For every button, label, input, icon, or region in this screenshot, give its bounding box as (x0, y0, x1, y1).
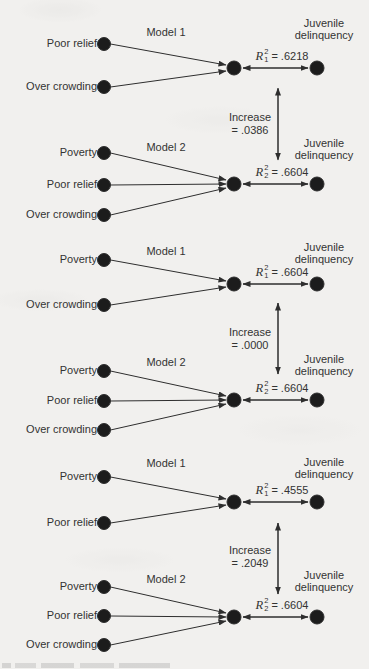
r2-label: R22= .6604 (246, 164, 318, 179)
predictor-node (98, 365, 111, 378)
outcome-label: Juvenile delinquency (284, 17, 364, 41)
predictor-arrow (111, 153, 227, 180)
model-title: Model 2 (120, 356, 212, 369)
predictor-label: Poverty (0, 470, 97, 483)
mediator-node (227, 61, 241, 75)
predictor-node (98, 179, 111, 192)
increase-label-line2: = .0386 (210, 124, 290, 137)
outcome-label-line2: delinquency (284, 29, 364, 41)
r2-value: = .6604 (271, 266, 308, 278)
predictor-arrow (111, 44, 227, 65)
increase-label: Increase = .0386 (210, 111, 290, 136)
predictor-arrow (111, 188, 227, 215)
predictor-arrow (111, 71, 227, 87)
outcome-label: Juvenile delinquency (284, 456, 364, 480)
r-subscript: 1 (264, 490, 268, 498)
predictor-arrow (111, 287, 227, 305)
model-title: Model 1 (120, 26, 212, 39)
r-subscript: 1 (264, 272, 268, 280)
mediator-node (227, 610, 241, 624)
increase-label: Increase = .2049 (210, 544, 290, 569)
outcome-label-line2: delinquency (284, 581, 364, 593)
r2-label: R22= .6604 (246, 597, 318, 612)
predictor-node (98, 254, 111, 267)
r-symbol: R (256, 381, 264, 396)
r2-value: = .4555 (271, 484, 308, 496)
outcome-label: Juvenile delinquency (284, 569, 364, 593)
predictor-arrow (111, 505, 227, 523)
r2-label: R21= .4555 (246, 482, 318, 497)
outcome-label-line2: delinquency (284, 149, 364, 161)
model-title: Model 2 (120, 141, 212, 154)
outcome-label-line1: Juvenile (284, 17, 364, 29)
increase-label-line1: Increase (210, 326, 290, 339)
increase-label-line1: Increase (210, 111, 290, 124)
outcome-label-line1: Juvenile (284, 353, 364, 365)
outcome-node (310, 177, 324, 191)
predictor-node (98, 299, 111, 312)
mediator-node (227, 393, 241, 407)
r2-value: = .6218 (271, 50, 308, 62)
predictor-label: Over crowding (0, 638, 97, 651)
predictor-node (98, 147, 111, 160)
outcome-label-line2: delinquency (284, 468, 364, 480)
predictor-node (98, 517, 111, 530)
cropped-caption-remnant (2, 663, 170, 668)
outcome-label-line1: Juvenile (284, 241, 364, 253)
increase-label-line2: = .2049 (210, 557, 290, 570)
outcome-node (310, 277, 324, 291)
predictor-label: Poor relief (0, 178, 97, 191)
predictor-node (98, 471, 111, 484)
model-title: Model 2 (120, 573, 212, 586)
predictor-arrow (111, 404, 227, 430)
predictor-arrow (111, 621, 227, 645)
figure-canvas: Model 1 Poor relief Over crowding Juveni… (0, 0, 369, 669)
outcome-node (310, 495, 324, 509)
outcome-node (310, 61, 324, 75)
predictor-node (98, 395, 111, 408)
predictor-label: Over crowding (0, 423, 97, 436)
increase-label-line2: = .0000 (210, 339, 290, 352)
predictor-arrow (111, 616, 227, 617)
predictor-label: Poverty (0, 146, 97, 159)
predictor-arrow (111, 184, 227, 185)
r-subscript: 1 (264, 56, 268, 64)
r2-label: R21= .6218 (246, 48, 318, 63)
r-subscript: 2 (264, 388, 268, 396)
predictor-arrow (111, 587, 227, 613)
predictor-label: Over crowding (0, 80, 97, 93)
predictor-label: Poor relief (0, 516, 97, 529)
mediator-node (227, 495, 241, 509)
r-subscript: 2 (264, 605, 268, 613)
r2-label: R21= .6604 (246, 264, 318, 279)
outcome-label: Juvenile delinquency (284, 137, 364, 161)
r2-value: = .6604 (271, 599, 308, 611)
r-symbol: R (256, 598, 264, 613)
predictor-arrow (111, 260, 227, 281)
mediator-node (227, 177, 241, 191)
predictor-node (98, 81, 111, 94)
mediator-node (227, 277, 241, 291)
outcome-label: Juvenile delinquency (284, 241, 364, 265)
predictor-label: Over crowding (0, 298, 97, 311)
r-symbol: R (256, 265, 264, 280)
predictor-label: Poverty (0, 253, 97, 266)
r-subscript: 2 (264, 172, 268, 180)
model-title: Model 1 (120, 457, 212, 470)
increase-label: Increase = .0000 (210, 326, 290, 351)
predictor-label: Poor relief (0, 609, 97, 622)
predictor-arrow (111, 371, 227, 396)
predictor-label: Poverty (0, 364, 97, 377)
predictor-label: Poor relief (0, 37, 97, 50)
predictor-node (98, 209, 111, 222)
r-symbol: R (256, 49, 264, 64)
predictor-arrow (111, 477, 227, 499)
predictor-node (98, 639, 111, 652)
predictor-node (98, 38, 111, 51)
predictor-label: Over crowding (0, 208, 97, 221)
predictor-label: Poor relief (0, 394, 97, 407)
increase-label-line1: Increase (210, 544, 290, 557)
model-title: Model 1 (120, 245, 212, 258)
outcome-node (310, 610, 324, 624)
outcome-label-line1: Juvenile (284, 569, 364, 581)
